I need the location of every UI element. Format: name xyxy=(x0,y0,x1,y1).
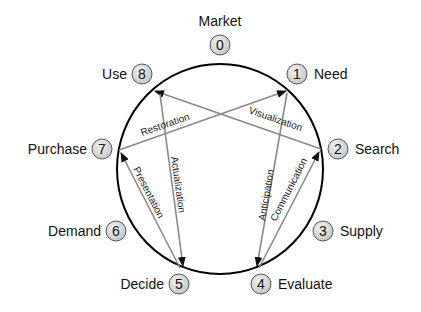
stage-number-4: 4 xyxy=(257,276,265,292)
stage-label-demand: Demand xyxy=(48,223,101,239)
stage-number-2: 2 xyxy=(334,141,342,157)
stage-number-7: 7 xyxy=(98,141,106,157)
arrow-label-presentation: Presentation xyxy=(131,165,166,220)
stage-label-evaluate: Evaluate xyxy=(278,276,333,292)
arrow-label-visualization: Visualization xyxy=(247,104,304,133)
arrow-restoration xyxy=(119,91,286,150)
stage-badge-3: 3 xyxy=(313,221,333,241)
stage-label-need: Need xyxy=(314,66,347,82)
stage-badge-2: 2 xyxy=(328,139,348,159)
stage-label-search: Search xyxy=(355,141,399,157)
stage-badge-7: 7 xyxy=(92,139,112,159)
stage-badge-8: 8 xyxy=(132,64,152,84)
stage-number-0: 0 xyxy=(216,37,224,53)
stage-number-3: 3 xyxy=(319,223,327,239)
stage-badge-1: 1 xyxy=(287,64,307,84)
stage-badge-4: 4 xyxy=(251,274,271,294)
stage-number-5: 5 xyxy=(175,276,183,292)
stage-label-purchase: Purchase xyxy=(28,141,87,157)
stage-label-decide: Decide xyxy=(120,276,164,292)
stage-label-supply: Supply xyxy=(340,223,383,239)
stage-label-use: Use xyxy=(102,66,127,82)
stage-badge-5: 5 xyxy=(169,274,189,294)
stage-label-market: Market xyxy=(199,13,242,29)
stage-number-1: 1 xyxy=(293,66,301,82)
market-cycle-diagram: Restoration Visualization Presentation A… xyxy=(0,0,421,312)
stage-number-6: 6 xyxy=(112,223,120,239)
stage-badge-0: 0 xyxy=(210,35,230,55)
stage-badge-6: 6 xyxy=(106,221,126,241)
stage-number-8: 8 xyxy=(138,66,146,82)
